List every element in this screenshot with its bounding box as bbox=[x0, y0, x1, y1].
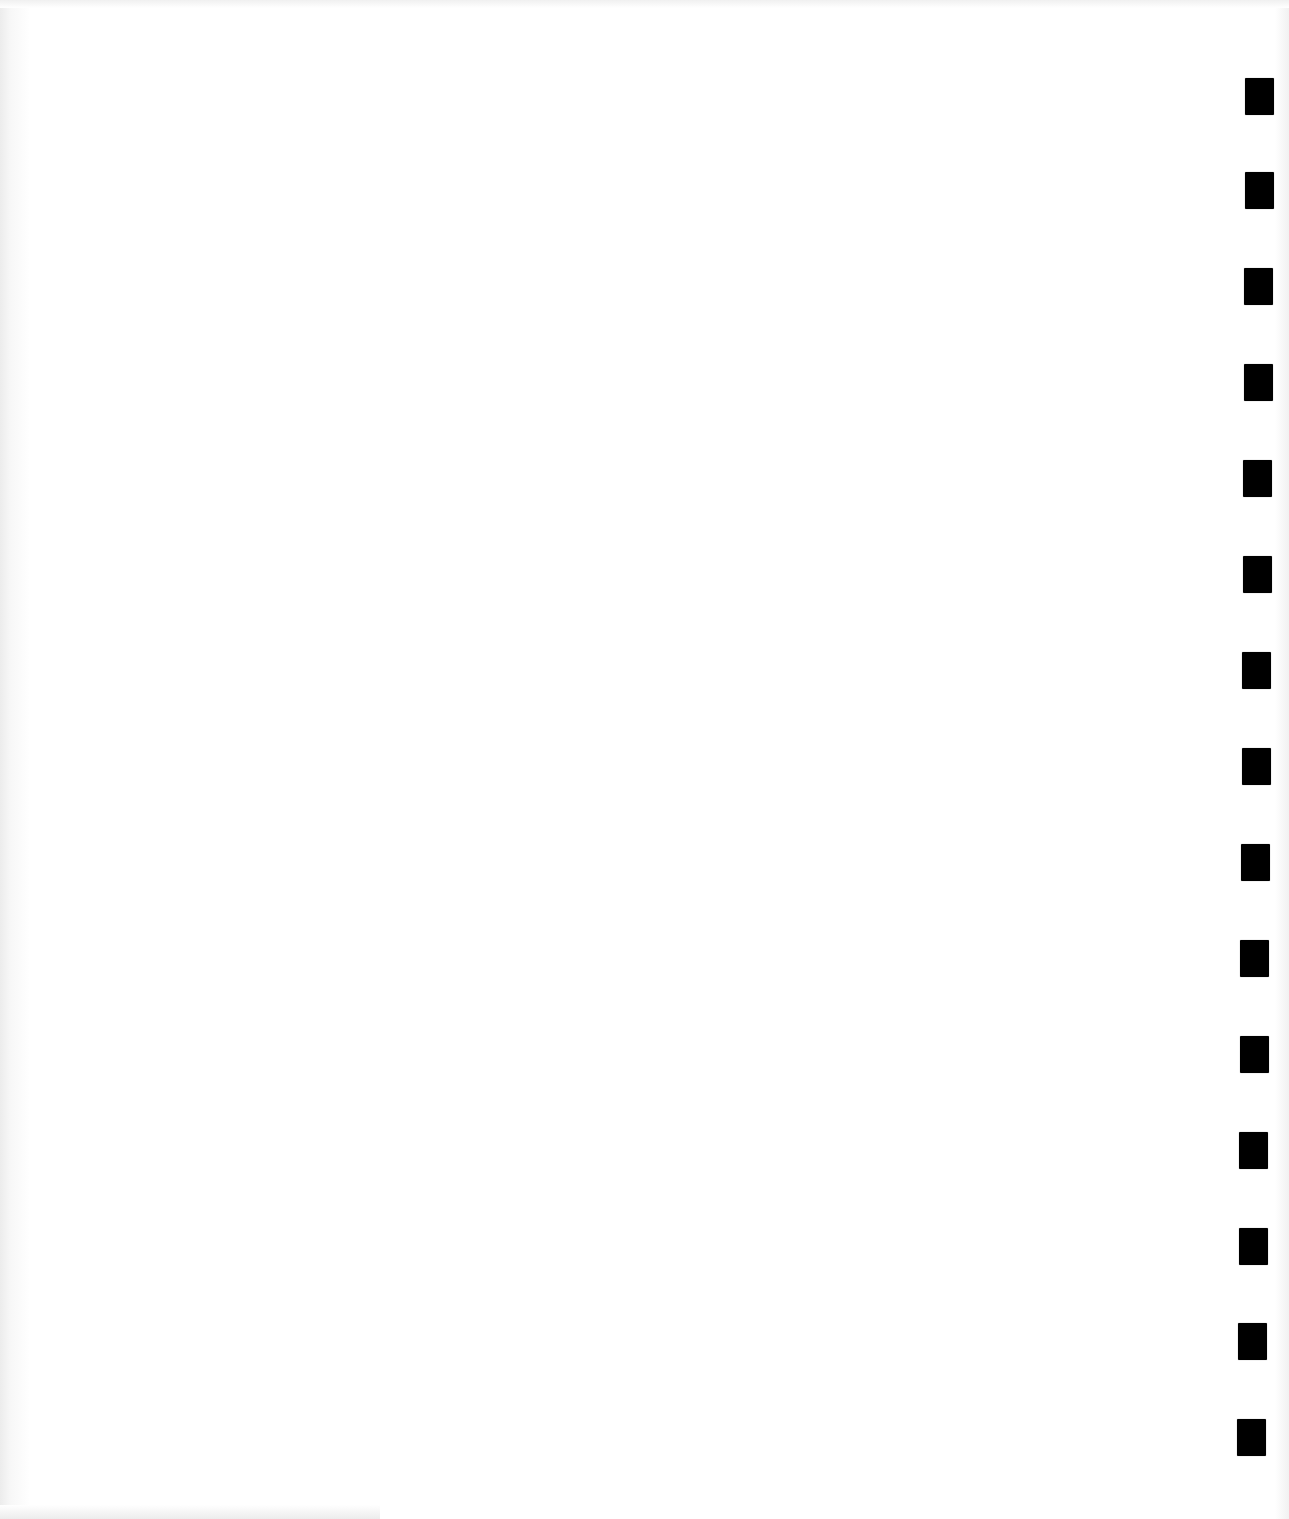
timing-mark bbox=[1241, 844, 1270, 881]
timing-mark bbox=[1243, 460, 1272, 497]
timing-mark bbox=[1244, 268, 1273, 305]
blank-page bbox=[0, 0, 1289, 1519]
timing-mark bbox=[1244, 364, 1273, 401]
timing-mark bbox=[1240, 940, 1269, 977]
timing-mark bbox=[1245, 78, 1274, 115]
timing-mark bbox=[1242, 652, 1271, 689]
timing-mark bbox=[1239, 1228, 1268, 1265]
timing-marks-column bbox=[0, 0, 1289, 1519]
timing-mark bbox=[1238, 1323, 1267, 1360]
timing-mark bbox=[1243, 556, 1272, 593]
timing-mark bbox=[1240, 1036, 1269, 1073]
timing-mark bbox=[1237, 1419, 1266, 1456]
timing-mark bbox=[1245, 172, 1274, 209]
timing-mark bbox=[1242, 748, 1271, 785]
timing-mark bbox=[1239, 1132, 1268, 1169]
